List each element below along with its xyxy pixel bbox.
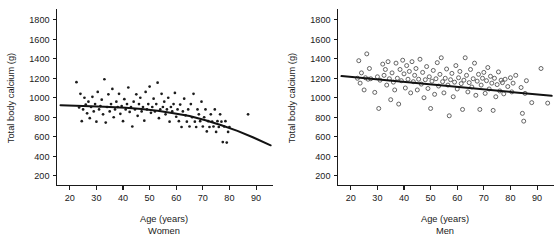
data-point bbox=[180, 126, 183, 129]
data-point bbox=[405, 64, 409, 68]
data-point bbox=[398, 67, 402, 71]
data-point bbox=[520, 111, 524, 115]
data-point bbox=[467, 81, 471, 85]
plot-area-women: 20040060080010001200140016001800 2030405… bbox=[0, 0, 278, 242]
data-point bbox=[477, 72, 481, 76]
data-point bbox=[423, 78, 427, 82]
data-point bbox=[496, 70, 500, 74]
data-point bbox=[458, 69, 462, 73]
data-point bbox=[208, 126, 211, 129]
data-point bbox=[201, 125, 204, 128]
data-point bbox=[546, 101, 550, 105]
data-point bbox=[417, 77, 421, 81]
data-point bbox=[418, 57, 422, 61]
y-tick-group: 20040060080010001200140016001800 bbox=[310, 15, 337, 181]
data-point bbox=[178, 120, 181, 123]
data-point bbox=[203, 116, 206, 119]
x-tick-label: 90 bbox=[532, 193, 542, 203]
data-point bbox=[186, 120, 189, 123]
data-point bbox=[183, 97, 186, 100]
data-point bbox=[150, 112, 153, 115]
data-point bbox=[152, 97, 155, 100]
data-point bbox=[491, 108, 495, 112]
data-point bbox=[401, 58, 405, 62]
data-point bbox=[403, 86, 407, 90]
data-point bbox=[410, 60, 414, 64]
data-point bbox=[220, 120, 223, 123]
data-point bbox=[119, 112, 122, 115]
data-point bbox=[466, 90, 470, 94]
data-point bbox=[164, 113, 167, 116]
y-tick-label: 400 bbox=[315, 152, 330, 162]
axes-men bbox=[338, 10, 554, 186]
data-point bbox=[112, 116, 115, 119]
axis-spines bbox=[338, 10, 554, 186]
data-point bbox=[524, 79, 528, 83]
figure-two-panel-scatter: 20040060080010001200140016001800 2030405… bbox=[0, 0, 557, 242]
data-point bbox=[96, 91, 99, 94]
data-point bbox=[92, 110, 95, 113]
data-point bbox=[471, 77, 475, 81]
data-point bbox=[147, 103, 150, 106]
plot-area-men: 20040060080010001200140016001800 2030405… bbox=[279, 0, 557, 242]
data-point bbox=[111, 88, 114, 91]
data-point bbox=[132, 100, 135, 103]
data-point bbox=[494, 95, 498, 99]
data-point bbox=[422, 96, 426, 100]
data-point bbox=[358, 81, 362, 85]
data-point bbox=[409, 91, 413, 95]
data-point bbox=[514, 73, 518, 77]
data-point bbox=[435, 61, 439, 65]
data-point bbox=[176, 108, 179, 111]
data-point bbox=[425, 65, 429, 69]
data-point bbox=[103, 78, 106, 81]
data-point bbox=[158, 117, 161, 120]
data-point bbox=[483, 91, 487, 95]
data-point bbox=[465, 73, 469, 77]
y-tick-label: 600 bbox=[315, 132, 330, 142]
data-point bbox=[225, 141, 228, 144]
y-tick-label: 800 bbox=[34, 113, 49, 123]
data-point bbox=[142, 106, 145, 109]
data-point bbox=[357, 59, 361, 63]
data-point bbox=[450, 71, 454, 75]
data-point bbox=[86, 112, 89, 115]
data-point bbox=[426, 86, 430, 90]
data-point bbox=[502, 92, 506, 96]
data-point bbox=[381, 62, 385, 66]
data-point bbox=[163, 100, 166, 103]
data-point bbox=[131, 125, 134, 128]
data-point bbox=[511, 81, 515, 85]
x-tick-label: 40 bbox=[399, 193, 409, 203]
axes-women bbox=[57, 10, 273, 186]
data-point bbox=[395, 76, 399, 80]
y-tick-group: 20040060080010001200140016001800 bbox=[29, 15, 56, 181]
data-point bbox=[402, 72, 406, 76]
data-point bbox=[104, 121, 107, 124]
data-point bbox=[414, 67, 418, 71]
data-point bbox=[205, 130, 208, 133]
data-point bbox=[167, 96, 170, 99]
x-axis-title: Age (years) bbox=[140, 214, 188, 224]
y-tick-label: 200 bbox=[315, 171, 330, 181]
x-tick-label: 20 bbox=[65, 193, 75, 203]
data-point bbox=[204, 108, 207, 111]
data-point bbox=[393, 88, 397, 92]
data-point bbox=[199, 120, 202, 123]
x-tick-label: 30 bbox=[91, 193, 101, 203]
data-point bbox=[88, 117, 91, 120]
y-axis-title: Total body calcium (g) bbox=[6, 53, 16, 143]
x-tick-label: 40 bbox=[118, 193, 128, 203]
data-point bbox=[382, 73, 386, 77]
y-tick-label: 1400 bbox=[310, 54, 330, 64]
data-point bbox=[386, 60, 390, 64]
data-point bbox=[227, 131, 230, 134]
data-point bbox=[91, 95, 94, 98]
data-point bbox=[160, 93, 163, 96]
x-tick-label: 50 bbox=[426, 193, 436, 203]
panel-men: 20040060080010001200140016001800 2030405… bbox=[279, 0, 557, 242]
data-point bbox=[209, 113, 212, 116]
data-point bbox=[519, 86, 523, 90]
data-point bbox=[123, 98, 126, 101]
x-tick-label: 70 bbox=[479, 193, 489, 203]
